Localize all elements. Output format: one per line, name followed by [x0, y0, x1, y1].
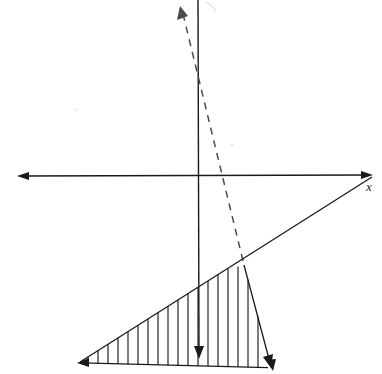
dashed-ray-arrow-icon — [177, 6, 188, 20]
dashed-ray-line — [183, 14, 244, 265]
paper-speck — [75, 109, 78, 112]
vertical-axis-down-arrow-icon — [194, 346, 204, 359]
figure-canvas: x — [0, 0, 382, 374]
paper-speck — [230, 143, 233, 146]
diagonal-ray — [80, 177, 372, 362]
paper-stray-mark — [206, 2, 216, 11]
diagram-svg — [0, 0, 382, 374]
triangle-base-line — [82, 363, 268, 368]
dashed-ray — [177, 6, 244, 265]
paper-texture-marks — [75, 2, 234, 147]
vertical-axis — [194, 0, 204, 359]
horizontal-axis-left-arrow-icon — [17, 172, 29, 180]
horizontal-axis-line — [22, 175, 368, 176]
x-axis-label: x — [366, 180, 372, 193]
horizontal-axis — [17, 171, 373, 180]
triangle-hatch-lines — [88, 267, 258, 368]
shaded-triangle — [77, 265, 276, 371]
diagonal-ray-line — [80, 177, 372, 362]
